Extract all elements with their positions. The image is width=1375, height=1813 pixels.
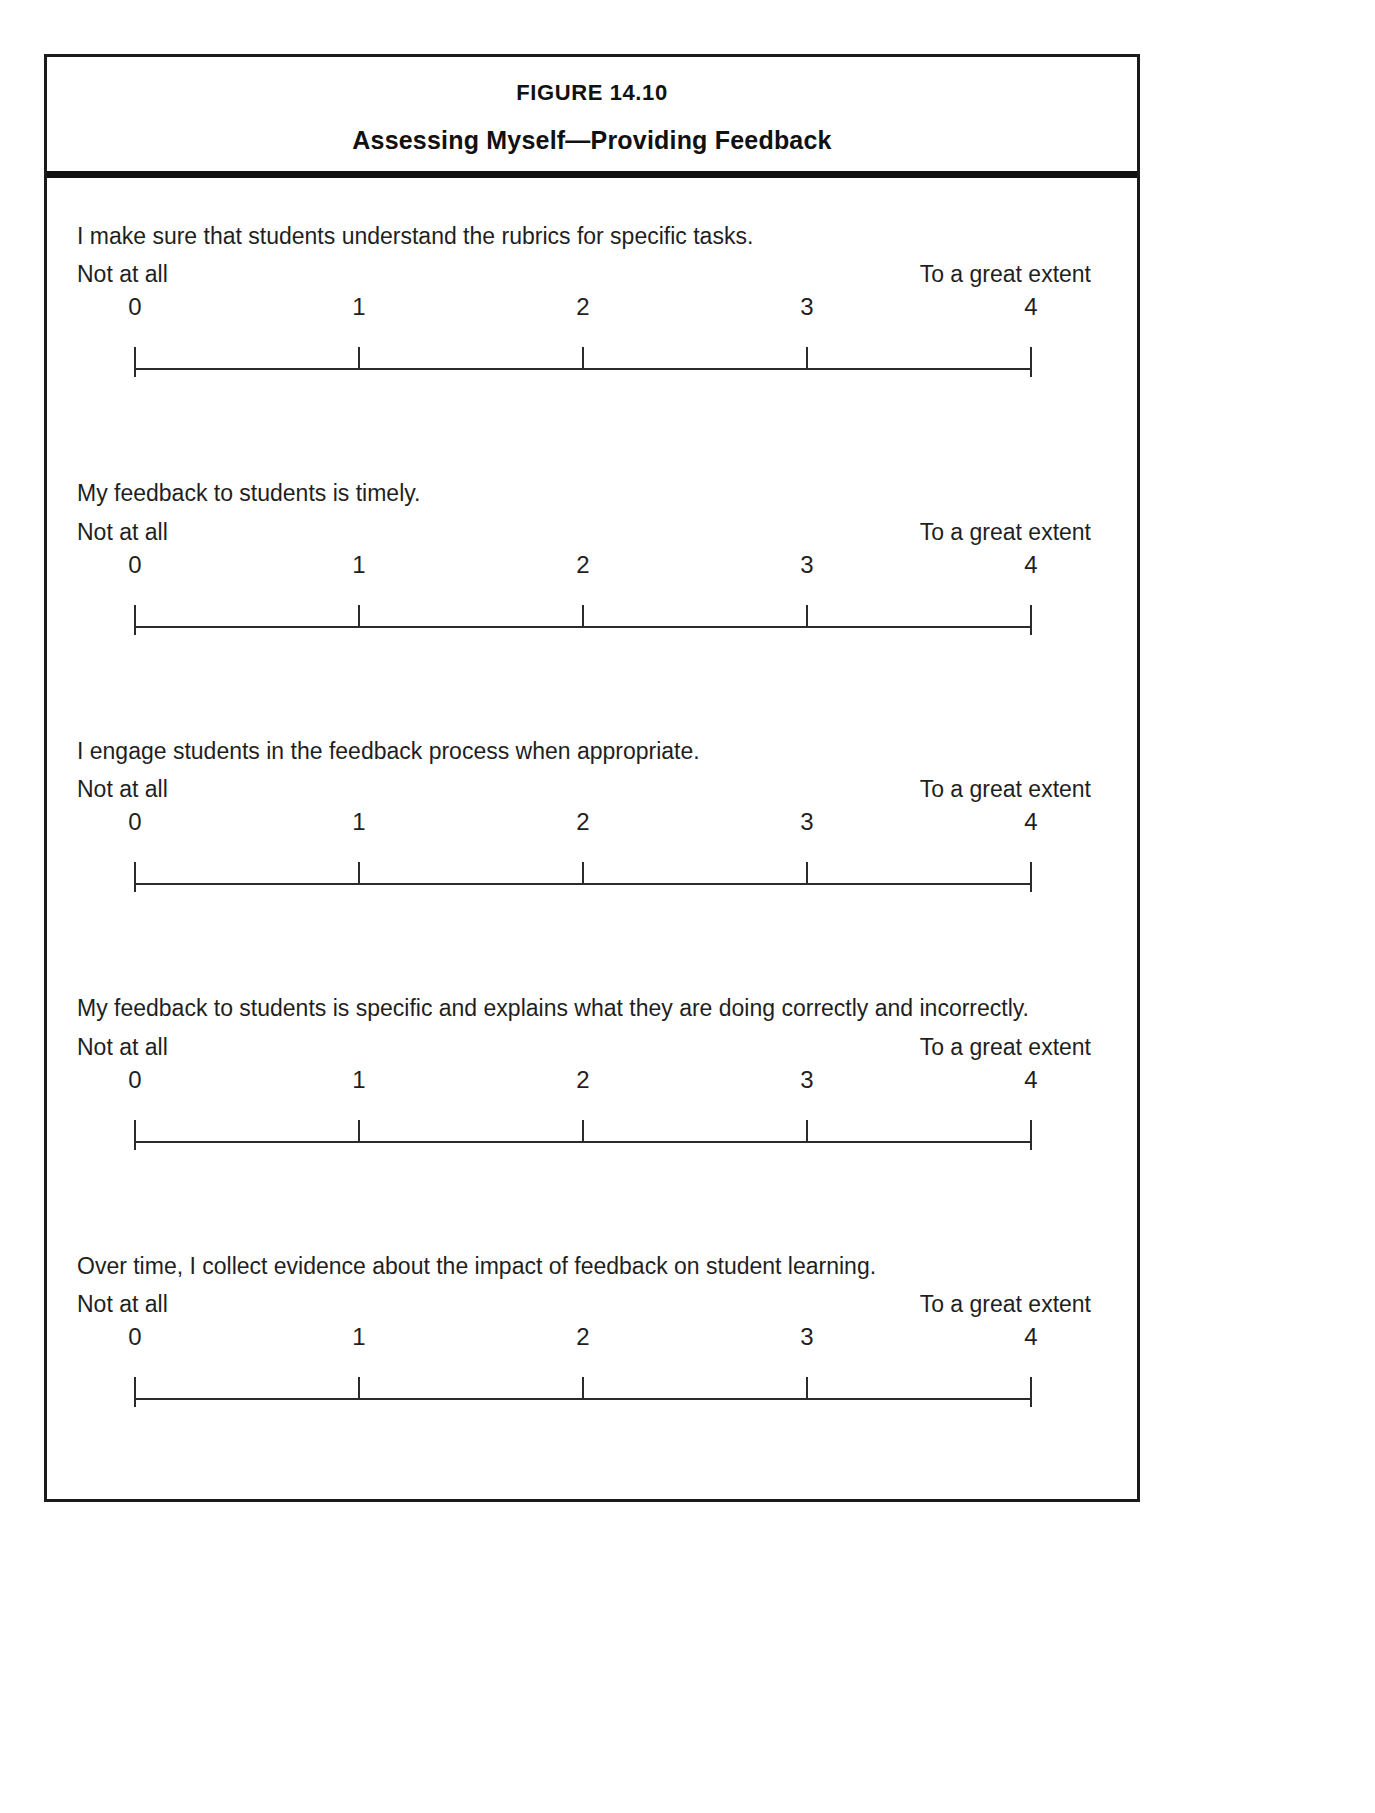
anchor-label-low: Not at all bbox=[77, 1290, 168, 1319]
scale-number: 0 bbox=[128, 553, 141, 577]
scale-number: 2 bbox=[576, 553, 589, 577]
item-question: I make sure that students understand the… bbox=[77, 222, 1107, 251]
scale-tick-1[interactable] bbox=[358, 1377, 360, 1400]
scale-tick-3[interactable] bbox=[806, 1377, 808, 1400]
scale-number: 4 bbox=[1024, 295, 1037, 319]
scale-number: 2 bbox=[576, 295, 589, 319]
anchor-row: Not at all To a great extent bbox=[77, 1290, 1107, 1319]
anchor-label-high: To a great extent bbox=[920, 518, 1107, 547]
anchor-row: Not at all To a great extent bbox=[77, 518, 1107, 547]
assessment-item: My feedback to students is specific and … bbox=[77, 994, 1107, 1152]
scale-number: 0 bbox=[128, 295, 141, 319]
scale-ruler[interactable] bbox=[135, 347, 1031, 377]
anchor-label-low: Not at all bbox=[77, 260, 168, 289]
rating-scale[interactable]: 0 1 2 3 4 bbox=[135, 1325, 1031, 1409]
item-question: Over time, I collect evidence about the … bbox=[77, 1252, 1107, 1281]
assessment-item: I engage students in the feedback proces… bbox=[77, 737, 1107, 895]
assessment-item: I make sure that students understand the… bbox=[77, 222, 1107, 380]
scale-tick-1[interactable] bbox=[358, 862, 360, 885]
anchor-label-low: Not at all bbox=[77, 775, 168, 804]
scale-number: 1 bbox=[352, 810, 365, 834]
scale-ruler[interactable] bbox=[135, 1377, 1031, 1407]
item-question: My feedback to students is timely. bbox=[77, 479, 1107, 508]
scale-number: 3 bbox=[800, 1325, 813, 1349]
rating-scale[interactable]: 0 1 2 3 4 bbox=[135, 295, 1031, 379]
anchor-label-high: To a great extent bbox=[920, 775, 1107, 804]
anchor-row: Not at all To a great extent bbox=[77, 775, 1107, 804]
scale-number: 3 bbox=[800, 295, 813, 319]
anchor-label-low: Not at all bbox=[77, 518, 168, 547]
figure-header: FIGURE 14.10 Assessing Myself—Providing … bbox=[47, 57, 1137, 178]
scale-tick-0[interactable] bbox=[134, 347, 136, 377]
scale-tick-2[interactable] bbox=[582, 1120, 584, 1143]
scale-tick-4[interactable] bbox=[1030, 605, 1032, 635]
scale-tick-4[interactable] bbox=[1030, 347, 1032, 377]
scale-number: 4 bbox=[1024, 553, 1037, 577]
scale-number: 0 bbox=[128, 1325, 141, 1349]
anchor-row: Not at all To a great extent bbox=[77, 1033, 1107, 1062]
scale-tick-3[interactable] bbox=[806, 347, 808, 370]
scale-tick-0[interactable] bbox=[134, 862, 136, 892]
scale-tick-0[interactable] bbox=[134, 1377, 136, 1407]
scale-number: 4 bbox=[1024, 1068, 1037, 1092]
scale-ruler[interactable] bbox=[135, 605, 1031, 635]
scale-tick-3[interactable] bbox=[806, 605, 808, 628]
scale-tick-4[interactable] bbox=[1030, 862, 1032, 892]
scale-tick-1[interactable] bbox=[358, 1120, 360, 1143]
scale-tick-2[interactable] bbox=[582, 605, 584, 628]
scale-tick-4[interactable] bbox=[1030, 1377, 1032, 1407]
scale-tick-3[interactable] bbox=[806, 1120, 808, 1143]
figure-number: FIGURE 14.10 bbox=[47, 81, 1137, 105]
rating-scale[interactable]: 0 1 2 3 4 bbox=[135, 553, 1031, 637]
anchor-label-high: To a great extent bbox=[920, 1033, 1107, 1062]
figure-body: I make sure that students understand the… bbox=[47, 178, 1137, 1420]
scale-tick-1[interactable] bbox=[358, 605, 360, 628]
scale-number: 2 bbox=[576, 1068, 589, 1092]
scale-number-row: 0 1 2 3 4 bbox=[135, 295, 1031, 331]
anchor-label-high: To a great extent bbox=[920, 1290, 1107, 1319]
scale-tick-2[interactable] bbox=[582, 862, 584, 885]
scale-number: 3 bbox=[800, 553, 813, 577]
scale-number: 1 bbox=[352, 1325, 365, 1349]
item-question: My feedback to students is specific and … bbox=[77, 994, 1107, 1023]
assessment-item: Over time, I collect evidence about the … bbox=[77, 1252, 1107, 1410]
anchor-label-low: Not at all bbox=[77, 1033, 168, 1062]
anchor-row: Not at all To a great extent bbox=[77, 260, 1107, 289]
scale-number: 2 bbox=[576, 810, 589, 834]
scale-number: 2 bbox=[576, 1325, 589, 1349]
scale-ruler[interactable] bbox=[135, 862, 1031, 892]
scale-number: 0 bbox=[128, 810, 141, 834]
scale-number-row: 0 1 2 3 4 bbox=[135, 810, 1031, 846]
scale-number: 0 bbox=[128, 1068, 141, 1092]
assessment-item: My feedback to students is timely. Not a… bbox=[77, 479, 1107, 637]
scale-number: 4 bbox=[1024, 810, 1037, 834]
scale-number: 3 bbox=[800, 810, 813, 834]
scale-tick-4[interactable] bbox=[1030, 1120, 1032, 1150]
rating-scale[interactable]: 0 1 2 3 4 bbox=[135, 810, 1031, 894]
figure-page: FIGURE 14.10 Assessing Myself—Providing … bbox=[44, 54, 1140, 1502]
scale-tick-1[interactable] bbox=[358, 347, 360, 370]
scale-number-row: 0 1 2 3 4 bbox=[135, 1325, 1031, 1361]
scale-number-row: 0 1 2 3 4 bbox=[135, 553, 1031, 589]
figure-title: Assessing Myself—Providing Feedback bbox=[47, 127, 1137, 155]
scale-number: 4 bbox=[1024, 1325, 1037, 1349]
item-question: I engage students in the feedback proces… bbox=[77, 737, 1107, 766]
scale-tick-0[interactable] bbox=[134, 605, 136, 635]
scale-ruler[interactable] bbox=[135, 1120, 1031, 1150]
scale-tick-3[interactable] bbox=[806, 862, 808, 885]
scale-tick-0[interactable] bbox=[134, 1120, 136, 1150]
scale-tick-2[interactable] bbox=[582, 1377, 584, 1400]
scale-number-row: 0 1 2 3 4 bbox=[135, 1068, 1031, 1104]
scale-number: 3 bbox=[800, 1068, 813, 1092]
scale-tick-2[interactable] bbox=[582, 347, 584, 370]
rating-scale[interactable]: 0 1 2 3 4 bbox=[135, 1068, 1031, 1152]
anchor-label-high: To a great extent bbox=[920, 260, 1107, 289]
scale-number: 1 bbox=[352, 553, 365, 577]
scale-number: 1 bbox=[352, 1068, 365, 1092]
scale-number: 1 bbox=[352, 295, 365, 319]
